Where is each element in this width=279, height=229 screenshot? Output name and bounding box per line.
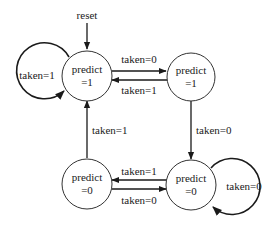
transition-label: taken=1 (19, 69, 55, 81)
state-s1: predict =1 (167, 53, 215, 101)
transition-s0-self: taken=1 (17, 43, 69, 99)
reset-label: reset (77, 9, 98, 21)
transition-label: taken=1 (121, 165, 157, 177)
state-value: =1 (81, 76, 93, 88)
transition-s1-s0: taken=1 (112, 80, 167, 96)
state-name: predict (72, 63, 103, 75)
state-s2: predict =0 (62, 159, 112, 209)
transition-s2-s0: taken=1 (87, 101, 128, 158)
transition-label: taken=1 (92, 124, 128, 136)
transition-s3-s2: taken=1 (112, 165, 167, 180)
state-s3: predict =0 (166, 160, 216, 210)
state-name: predict (176, 64, 207, 76)
state-diagram: reset taken=1 taken=0 taken=1 taken=0 ta… (0, 0, 279, 229)
state-name: predict (176, 172, 207, 184)
initial-transition: reset (77, 9, 98, 49)
state-value: =0 (81, 184, 93, 196)
state-value: =0 (185, 185, 197, 197)
transition-label: taken=0 (226, 180, 262, 192)
transition-label: taken=0 (121, 53, 157, 65)
transition-label: taken=0 (121, 194, 157, 206)
state-value: =1 (185, 77, 197, 89)
transition-s2-s3: taken=0 (112, 189, 166, 206)
transition-label: taken=0 (196, 124, 232, 136)
transition-s1-s3: taken=0 (191, 101, 232, 159)
state-s0: predict =1 (62, 51, 112, 101)
transition-s0-s1: taken=0 (112, 53, 166, 71)
state-name: predict (72, 171, 103, 183)
transition-s3-self: taken=0 (211, 158, 262, 214)
transition-label: taken=1 (121, 84, 157, 96)
